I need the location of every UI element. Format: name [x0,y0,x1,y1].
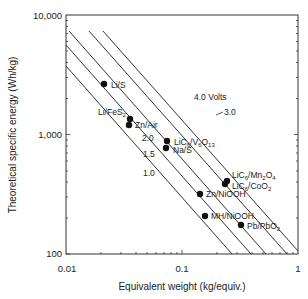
label-zn-niooh: Zn/NiOOH [206,189,246,199]
y-tick-1000: 1,000 [38,129,62,140]
voltage-line-1-5 [66,45,251,254]
point-lic6-v6o13 [164,138,170,144]
x-tick-0-1: 0.1 [175,263,188,274]
point-zn-niooh [197,191,203,197]
plot-frame [66,15,298,254]
point-li-s [101,81,107,87]
label-3-0-leader [216,112,223,115]
label-li-fes2: Li/FeS2 [98,107,127,118]
x-tick-1: 1 [295,263,300,274]
label-lic6-mn2o4: LiC6/Mn2O4 [232,170,276,181]
label-4-0-volts: 4.0 Volts [194,92,227,102]
point-labels: Li/S Li/FeS2 Zn/Air LiC6/V6O13 Na/S LiC6… [98,80,281,232]
label-pb-pbo2: Pb/PbO2 [247,221,281,232]
y-tick-100: 100 [46,248,62,259]
y-tick-labels: 10,000 1,000 100 [33,10,62,259]
point-lic6-coo2 [222,181,228,187]
point-li-fes2 [127,116,133,122]
x-axis-label: Equivalent weight (kg/equiv.) [118,281,245,292]
point-zn-air [126,122,132,128]
label-3-0: 3.0 [224,107,236,117]
label-1-0: 1.0 [143,168,155,178]
point-mh-niooh [202,213,208,219]
x-tick-0-01: 0.01 [58,263,77,274]
point-na-s [163,145,169,151]
x-tick-labels: 0.01 0.1 1 [58,263,301,274]
label-mh-niooh: MH/NiOOH [211,211,254,221]
energy-vs-equivalent-weight-chart: 4.0 Volts 3.0 2.0 1.5 1.0 Li/S Li/FeS2 Z… [0,0,308,299]
label-li-s: Li/S [111,80,126,90]
label-zn-air: Zn/Air [135,120,158,130]
label-2-0: 2.0 [142,133,154,143]
y-tick-10000: 10,000 [33,10,62,21]
point-pb-pbo2 [238,222,244,228]
label-1-5: 1.5 [143,149,155,159]
y-axis-label: Theoretical specific energy (Wh/kg) [7,57,18,214]
label-na-s: Na/S [173,145,192,155]
